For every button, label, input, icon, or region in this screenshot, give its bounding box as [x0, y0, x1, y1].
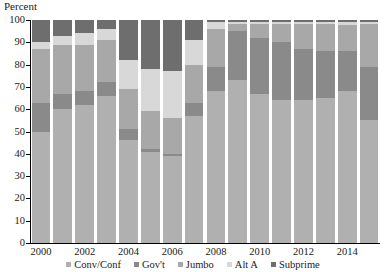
- legend-label: Conv/Conf: [74, 259, 121, 270]
- legend-item-subprime[interactable]: Subprime: [271, 259, 320, 270]
- legend-swatch: [178, 262, 183, 267]
- x-tick-label: 2012: [293, 246, 314, 257]
- legend-label: Jumbo: [186, 259, 214, 270]
- legend-swatch: [134, 262, 139, 267]
- chart-container: Percent 0102030405060708090100 200020022…: [0, 0, 386, 272]
- chart-legend: Conv/ConfGov'tJumboAlt ASubprime: [0, 257, 386, 271]
- legend-item-jumbo[interactable]: Jumbo: [178, 259, 214, 270]
- x-tick-label: 2010: [249, 246, 270, 257]
- x-tick-label: 2014: [337, 246, 358, 257]
- legend-swatch: [227, 262, 232, 267]
- legend-label: Subprime: [279, 259, 320, 270]
- legend-label: Alt A: [235, 259, 258, 270]
- legend-label: Gov't: [142, 259, 165, 270]
- legend-swatch: [271, 262, 276, 267]
- x-tick-label: 2006: [162, 246, 183, 257]
- x-axis-ticks: 20002002200420062008201020122014: [0, 0, 386, 272]
- legend-swatch: [66, 262, 71, 267]
- x-tick-label: 2000: [30, 246, 51, 257]
- x-tick-label: 2008: [205, 246, 226, 257]
- legend-item-gov-t[interactable]: Gov't: [134, 259, 165, 270]
- x-tick-label: 2002: [74, 246, 95, 257]
- legend-item-conv-conf[interactable]: Conv/Conf: [66, 259, 121, 270]
- legend-item-alt-a[interactable]: Alt A: [227, 259, 258, 270]
- x-tick-label: 2004: [118, 246, 139, 257]
